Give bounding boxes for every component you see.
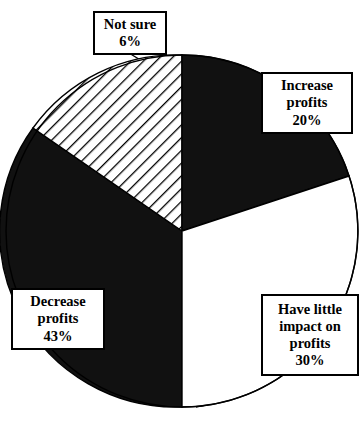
pie-label-decrease-profits-name-2: profits <box>38 310 79 327</box>
pie-label-not-sure-value: 6% <box>119 33 141 50</box>
pie-label-increase-profits-value: 20% <box>293 112 322 129</box>
pie-label-increase-profits-name-2: profits <box>287 94 328 111</box>
pie-chart-figure: Not sure 6% Increase profits 20% Have li… <box>0 0 363 421</box>
pie-label-have-little-impact-name-2: impact on <box>279 318 341 335</box>
pie-label-decrease-profits-name-1: Decrease <box>30 293 85 310</box>
pie-label-have-little-impact-name-3: profits <box>290 335 331 352</box>
pie-label-have-little-impact: Have little impact on profits 30% <box>261 294 359 376</box>
pie-label-not-sure: Not sure 6% <box>93 11 167 55</box>
pie-label-have-little-impact-name-1: Have little <box>278 301 342 318</box>
pie-label-increase-profits: Increase profits 20% <box>261 72 353 134</box>
pie-label-increase-profits-name-1: Increase <box>281 77 333 94</box>
pie-label-not-sure-name: Not sure <box>104 16 157 33</box>
pie-label-decrease-profits: Decrease profits 43% <box>11 288 105 350</box>
pie-label-decrease-profits-value: 43% <box>44 328 73 345</box>
pie-label-have-little-impact-value: 30% <box>296 352 325 369</box>
